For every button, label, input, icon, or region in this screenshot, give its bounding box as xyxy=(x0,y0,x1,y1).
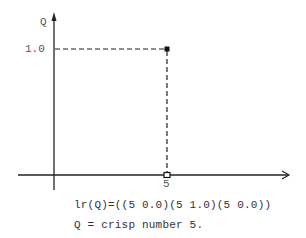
caption-membership: lr(Q)=((5 0.0)(5 1.0)(5 0.0)) xyxy=(74,199,271,211)
y-tick-label: 1.0 xyxy=(25,43,45,55)
data-point-bottom xyxy=(164,173,170,178)
caption-description: Q = crisp number 5. xyxy=(74,219,203,231)
y-axis-label: Q xyxy=(40,16,47,28)
data-point-top xyxy=(165,47,170,52)
x-tick-label: 5 xyxy=(163,178,170,190)
y-axis-arrow-icon xyxy=(52,12,57,21)
